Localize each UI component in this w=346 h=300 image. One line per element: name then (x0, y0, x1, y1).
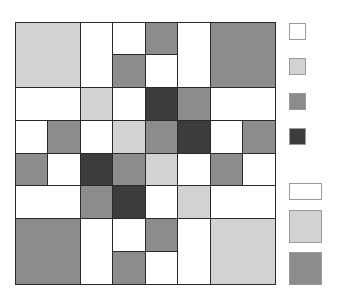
grid-tile-dark (112, 185, 146, 219)
grid-tile-white (15, 120, 49, 154)
grid-tile-mid (242, 120, 276, 154)
grid-tile-light (80, 87, 114, 121)
grid-tile-mid (145, 120, 179, 154)
grid-tile-white (80, 22, 114, 89)
grid-tile-dark (80, 153, 114, 187)
grid-tile-mid (15, 218, 81, 285)
grid-tile-light (210, 218, 276, 285)
legend-swatch-white (289, 23, 306, 40)
grid-tile-mid (15, 153, 49, 187)
grid-tile-white (145, 251, 179, 285)
grid-tile-mid (177, 87, 211, 121)
grid-tile-white (80, 120, 114, 154)
grid-tile-light (145, 153, 179, 187)
grid-tile-mid (112, 251, 146, 285)
grid-tile-white (145, 54, 179, 88)
legend-swatch-mid (289, 252, 322, 285)
grid-tile-white (112, 22, 146, 56)
legend-swatch-light (289, 58, 306, 75)
grid-tile-mid (210, 22, 276, 89)
grid-tile-mid (145, 218, 179, 252)
grid-tile-white (210, 87, 276, 121)
tile-grid (15, 22, 275, 284)
grid-tile-white (47, 153, 81, 187)
grid-tile-white (177, 22, 211, 89)
grid-tile-white (112, 218, 146, 252)
grid-tile-white (242, 153, 276, 187)
grid-tile-mid (47, 120, 81, 154)
grid-tile-light (177, 185, 211, 219)
grid-tile-white (177, 218, 211, 285)
grid-tile-mid (112, 54, 146, 88)
grid-tile-light (112, 120, 146, 154)
grid-tile-light (15, 22, 81, 89)
legend-swatch-mid (289, 93, 306, 110)
grid-tile-white (15, 87, 81, 121)
grid-tile-white (177, 153, 211, 187)
legend-swatch-dark (289, 128, 306, 145)
legend-swatch-light (289, 210, 322, 243)
grid-tile-mid (112, 153, 146, 187)
grid-tile-white (15, 185, 81, 219)
grid-tile-mid (145, 22, 179, 56)
grid-tile-white (210, 120, 244, 154)
grid-tile-mid (210, 153, 244, 187)
grid-tile-white (210, 185, 276, 219)
grid-tile-white (80, 218, 114, 285)
grid-tile-dark (145, 87, 179, 121)
grid-tile-mid (80, 185, 114, 219)
legend-swatch-white (289, 183, 322, 200)
grid-tile-dark (177, 120, 211, 154)
grid-tile-white (112, 87, 146, 121)
grid-tile-white (145, 185, 179, 219)
